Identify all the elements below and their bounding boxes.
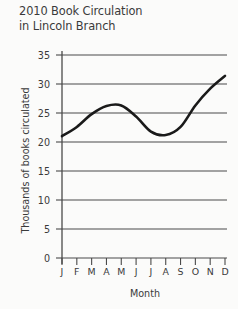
book-circulation-line-chart: 2010 Book Circulation in Lincoln Branch … bbox=[0, 0, 238, 309]
y-axis-ticks bbox=[56, 55, 62, 258]
plot-area bbox=[0, 0, 238, 309]
data-line-series-book-circulation bbox=[62, 76, 225, 136]
gridlines bbox=[62, 55, 227, 258]
x-axis-ticks bbox=[62, 258, 225, 265]
